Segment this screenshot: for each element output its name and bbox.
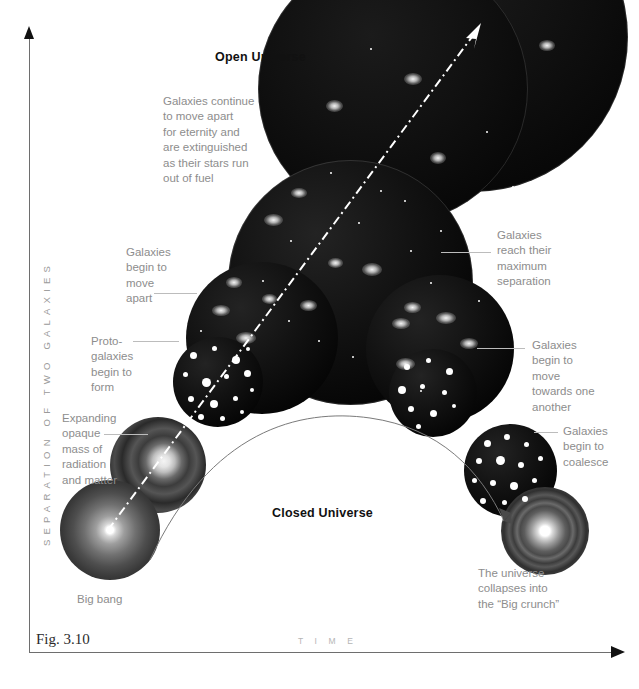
annotation-max-separation: Galaxies reach their maximum separation — [497, 228, 601, 290]
closed-universe-heading: Closed Universe — [272, 506, 373, 520]
figure-number: Fig. 3.10 — [36, 631, 90, 648]
annotation-coalesce: Galaxies begin to coalesce — [563, 424, 639, 470]
y-axis-line — [29, 36, 30, 653]
annotation-big-crunch: The universe collapses into the “Big cru… — [478, 566, 610, 612]
x-axis-label: T I M E — [298, 636, 357, 646]
leader-line-coalesce — [534, 432, 558, 433]
annotation-begin-move-apart: Galaxies begin to move apart — [126, 245, 216, 307]
open-universe-heading: Open Universe — [215, 50, 306, 64]
arrow-up-icon — [24, 26, 34, 39]
x-axis-line — [29, 652, 621, 653]
arrow-right-icon — [611, 646, 625, 658]
leader-line-max-separation — [441, 252, 491, 253]
y-axis-label: SEPARATION OF TWO GALAXIES — [41, 144, 52, 664]
annotation-open-eternal: Galaxies continue to move apart for eter… — [163, 94, 283, 186]
annotation-move-towards: Galaxies begin to move towards one anoth… — [532, 338, 636, 415]
annotation-proto-galaxies: Proto- galaxies begin to form — [91, 334, 171, 396]
leader-line-begin-move-apart — [154, 293, 197, 294]
leader-line-proto-galaxies — [133, 341, 179, 342]
leader-line-expanding-opaque — [104, 434, 148, 435]
leader-line-move-towards — [477, 348, 525, 349]
annotation-expanding-opaque: Expanding opaque mass of radiation and m… — [62, 411, 154, 488]
figure-panel: SEPARATION OF TWO GALAXIES T I M E Fig. … — [0, 0, 639, 689]
label-big-bang: Big bang — [77, 592, 167, 607]
